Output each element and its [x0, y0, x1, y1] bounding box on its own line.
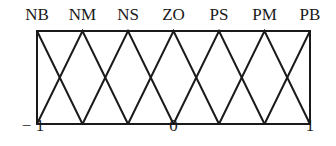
set-label-pb: PB: [300, 5, 321, 25]
membership-triangle-pm: [219, 31, 310, 124]
axis-tick-label: 0: [169, 116, 178, 136]
set-label-nb: NB: [25, 5, 49, 25]
set-label-zo: ZO: [162, 5, 185, 25]
membership-triangle-ns: [83, 31, 174, 124]
membership-triangle-zo: [128, 31, 219, 124]
membership-triangle-ps: [174, 31, 265, 124]
membership-box: [37, 31, 310, 124]
set-label-pm: PM: [252, 5, 277, 25]
membership-triangle-nm: [37, 31, 128, 124]
axis-tick-label: − 1: [22, 116, 44, 136]
axis-tick-label: 1: [306, 116, 315, 136]
set-label-ns: NS: [117, 5, 139, 25]
set-label-nm: NM: [69, 5, 96, 25]
set-label-ps: PS: [210, 5, 229, 25]
